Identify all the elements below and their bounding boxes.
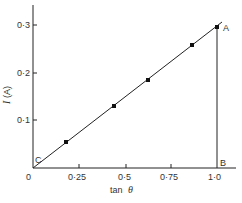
data-point: [215, 25, 219, 29]
data-point: [112, 104, 116, 108]
point-label-b: B: [220, 158, 226, 168]
x-axis-title: tan θ: [110, 184, 133, 195]
y-tick-label: 0·2: [17, 68, 30, 78]
x-axis-title-text: tan: [110, 185, 123, 195]
point-label-c: C: [35, 155, 42, 165]
y-tick-label: 0·3: [17, 20, 30, 30]
chart-canvas: 0·1 0·2 0·3 0 0·25 0·5 0·75 1·0 tan θ I …: [0, 0, 242, 203]
x-tick-label: 0·75: [160, 172, 178, 182]
data-point: [190, 43, 194, 47]
y-axis-title-symbol: I: [1, 100, 12, 105]
x-axis-title-symbol: θ: [128, 184, 133, 195]
x-tick-label: 1·0: [208, 172, 221, 182]
data-point: [64, 140, 68, 144]
x-tick-label: 0: [26, 172, 31, 182]
y-axis-title: I (A): [1, 86, 12, 105]
x-tick-label: 0·5: [118, 172, 131, 182]
data-point: [146, 78, 150, 82]
y-axis-title-unit: (A): [2, 86, 12, 98]
x-tick-label: 0·25: [68, 172, 86, 182]
y-tick-label: 0·1: [17, 115, 30, 125]
point-label-a: A: [223, 23, 229, 33]
